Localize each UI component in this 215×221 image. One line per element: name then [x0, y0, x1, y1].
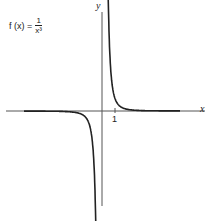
- formula-numerator: 1: [35, 16, 41, 26]
- curve-positive-branch: [107, 0, 180, 111]
- function-formula: f (x) = 1 x³: [9, 16, 42, 35]
- x-tick-label-1: 1: [112, 114, 117, 124]
- formula-lhs: f (x) =: [9, 21, 32, 31]
- y-axis-label: y: [96, 0, 100, 11]
- curve-negative-branch: [24, 111, 97, 221]
- formula-denominator: x³: [35, 26, 42, 35]
- x-axis-label: x: [200, 103, 204, 114]
- formula-fraction: 1 x³: [35, 16, 42, 35]
